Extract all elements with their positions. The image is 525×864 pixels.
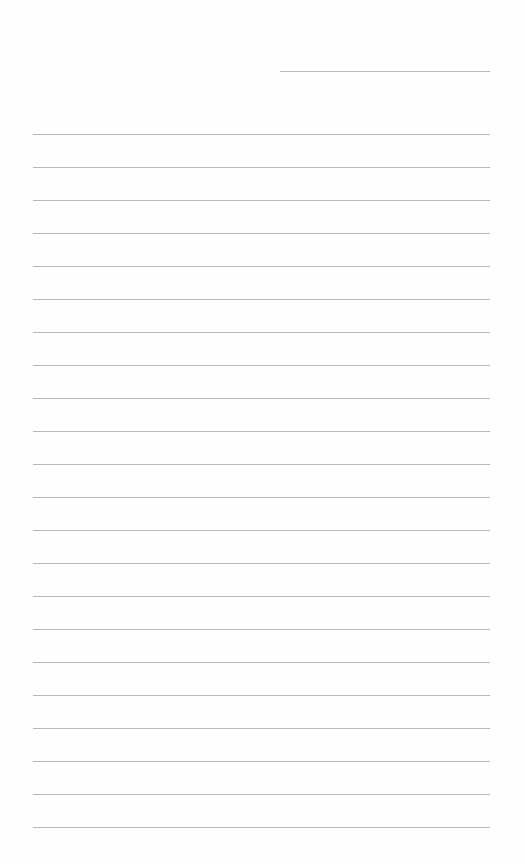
ruled-line (33, 728, 490, 729)
ruled-line (33, 167, 490, 168)
ruled-line (33, 332, 490, 333)
ruled-line (33, 398, 490, 399)
ruled-line (33, 596, 490, 597)
ruled-line (33, 134, 490, 135)
ruled-line (33, 266, 490, 267)
ruled-line (33, 794, 490, 795)
ruled-line (33, 530, 490, 531)
ruled-line (33, 662, 490, 663)
ruled-line (33, 200, 490, 201)
header-line (280, 71, 490, 72)
lined-paper-page (0, 0, 525, 864)
ruled-line (33, 464, 490, 465)
ruled-line (33, 233, 490, 234)
ruled-line (33, 365, 490, 366)
ruled-line (33, 563, 490, 564)
ruled-line (33, 629, 490, 630)
ruled-line (33, 827, 490, 828)
ruled-line (33, 695, 490, 696)
ruled-line (33, 497, 490, 498)
ruled-line (33, 761, 490, 762)
ruled-line (33, 431, 490, 432)
ruled-line (33, 299, 490, 300)
